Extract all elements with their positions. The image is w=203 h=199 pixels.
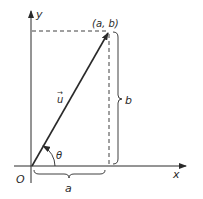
vertical-brace bbox=[113, 32, 122, 164]
vector-accent-arrow: → bbox=[57, 89, 63, 97]
horizontal-brace bbox=[34, 170, 105, 178]
horizontal-component-label: a bbox=[65, 182, 72, 195]
vertical-component-label: b bbox=[125, 94, 132, 107]
x-axis-label: x bbox=[172, 168, 180, 181]
vector-diagram: y x O (a, b) u → θ a b bbox=[0, 0, 203, 199]
origin-label: O bbox=[16, 173, 25, 186]
angle-arc bbox=[43, 146, 55, 166]
point-label: (a, b) bbox=[92, 18, 119, 29]
angle-label: θ bbox=[56, 150, 62, 161]
y-axis-label: y bbox=[35, 8, 43, 21]
